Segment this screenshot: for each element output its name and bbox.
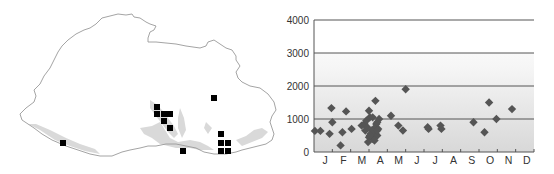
- x-tick-label: A: [450, 154, 457, 166]
- x-tick-label: S: [468, 154, 475, 166]
- y-tick-label: 2000: [287, 81, 310, 92]
- y-tick-label: 4000: [287, 15, 310, 26]
- x-tick-label: O: [486, 154, 494, 166]
- occurrence-marker: [161, 111, 167, 117]
- occurrence-marker: [218, 148, 224, 154]
- x-tick-label: M: [357, 154, 366, 166]
- y-tick-label: 0: [303, 147, 309, 158]
- x-tick-label: F: [340, 154, 346, 166]
- x-tick-label: J: [414, 154, 419, 166]
- occurrence-marker: [225, 140, 231, 146]
- occurrence-marker: [218, 131, 224, 137]
- y-tick-label: 1000: [287, 114, 310, 125]
- distribution-map: [0, 0, 290, 174]
- occurrence-marker: [225, 148, 231, 154]
- occurrence-marker: [167, 125, 173, 131]
- x-tick-label: D: [523, 154, 531, 166]
- x-tick-label: N: [505, 154, 513, 166]
- y-tick-label: 3000: [287, 48, 310, 59]
- occurrence-marker: [154, 111, 160, 117]
- occurrence-marker: [180, 148, 186, 154]
- y-tick-labels: 01000200030004000: [287, 15, 310, 158]
- x-tick-label: A: [377, 154, 384, 166]
- x-tick-label: J: [433, 154, 438, 166]
- occurrence-marker: [161, 118, 167, 124]
- occurrence-marker: [60, 140, 66, 146]
- x-tick-label: J: [323, 154, 328, 166]
- elevation-month-scatter: 01000200030004000 JFMAMJJASOND: [270, 0, 554, 174]
- occurrence-marker: [211, 95, 217, 101]
- x-tick-label: M: [394, 154, 403, 166]
- occurrence-marker: [167, 111, 173, 117]
- occurrence-marker: [218, 140, 224, 146]
- occurrence-marker: [154, 104, 160, 110]
